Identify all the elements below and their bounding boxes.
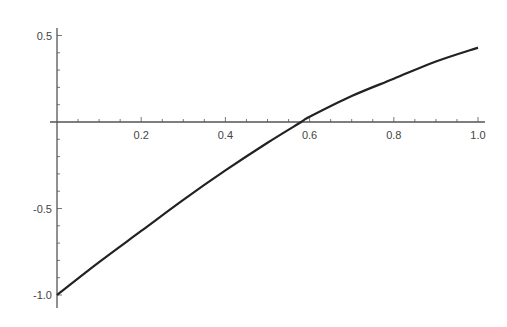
x-tick-label: 0.2 bbox=[134, 129, 149, 141]
axis-ticks bbox=[57, 36, 478, 296]
x-tick-label: 0.8 bbox=[386, 129, 401, 141]
axes bbox=[50, 28, 485, 308]
x-tick-label: 0.4 bbox=[218, 129, 233, 141]
y-tick-label: -1.0 bbox=[33, 289, 52, 301]
data-curve bbox=[57, 48, 478, 295]
line-chart: 0.20.40.60.81.00.5-0.5-1.0 bbox=[0, 0, 507, 327]
x-tick-label: 0.6 bbox=[302, 129, 317, 141]
y-tick-label: -0.5 bbox=[33, 203, 52, 215]
x-tick-label: 1.0 bbox=[470, 129, 485, 141]
y-tick-label: 0.5 bbox=[37, 30, 52, 42]
